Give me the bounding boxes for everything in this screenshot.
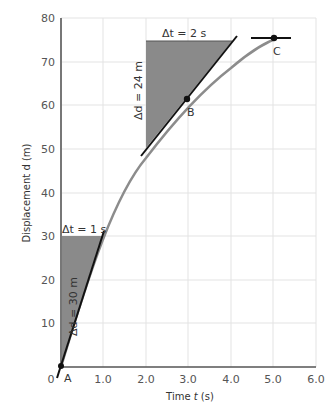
svg-text:80: 80 <box>41 12 55 25</box>
svg-text:5.0: 5.0 <box>264 373 282 386</box>
point-a-marker <box>58 363 64 369</box>
svg-text:40: 40 <box>41 187 55 200</box>
delta-t-b: Δt = 2 s <box>162 27 207 40</box>
svg-text:1.0: 1.0 <box>94 373 112 386</box>
y-axis-label: Displacement d (m) <box>21 143 32 242</box>
svg-text:50: 50 <box>41 143 55 156</box>
point-b-label: B <box>187 106 195 119</box>
svg-text:2.0: 2.0 <box>137 373 155 386</box>
svg-text:20: 20 <box>41 274 55 287</box>
svg-text:0: 0 <box>48 373 55 386</box>
delta-t-a: Δt = 1 s <box>62 223 107 236</box>
point-c-label: C <box>273 45 281 58</box>
displacement-time-chart: A B C Δt = 1 s Δt = 2 s Δd = 30 m Δd = 2… <box>0 0 336 409</box>
svg-text:6.0: 6.0 <box>307 373 325 386</box>
svg-text:60: 60 <box>41 99 55 112</box>
y-tick-labels: 10 20 30 40 50 60 70 80 <box>41 12 55 330</box>
x-tick-labels: 0 1.0 2.0 3.0 4.0 5.0 6.0 <box>48 373 325 386</box>
point-b-marker <box>184 96 190 102</box>
svg-text:4.0: 4.0 <box>222 373 240 386</box>
svg-text:70: 70 <box>41 56 55 69</box>
svg-text:10: 10 <box>41 317 55 330</box>
x-axis-label: Time t (s) <box>165 391 214 402</box>
svg-text:30: 30 <box>41 230 55 243</box>
point-c-marker <box>271 35 277 41</box>
svg-text:3.0: 3.0 <box>179 373 197 386</box>
delta-d-a: Δd = 30 m <box>67 277 80 336</box>
delta-d-b: Δd = 24 m <box>132 61 145 120</box>
point-a-label: A <box>64 372 72 385</box>
